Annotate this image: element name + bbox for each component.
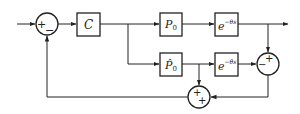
plant-delay-block: e−θs [215, 13, 238, 36]
error-summing-junction: + − [257, 53, 279, 75]
arrow-to-model [128, 24, 159, 64]
block-diagram: + − C P0 e−θs P̂0 e−θ̂s + − [0, 0, 300, 114]
controller-label: C [84, 18, 93, 32]
controller-block: C [77, 13, 100, 36]
plus-sign: + [198, 95, 206, 106]
feedback-summing-junction: + + [188, 86, 210, 108]
input-summing-junction: + − [36, 13, 58, 37]
arrow-error-to-feedback-sum [211, 75, 268, 97]
plant-block: P0 [160, 13, 182, 36]
model-delay-block: e−θ̂s [215, 53, 238, 76]
minus-sign: − [45, 24, 54, 37]
minus-sign: − [258, 59, 266, 70]
model-block: P̂0 [160, 53, 182, 76]
